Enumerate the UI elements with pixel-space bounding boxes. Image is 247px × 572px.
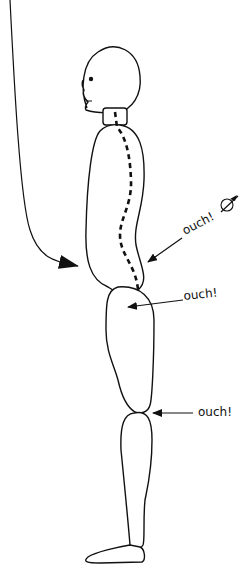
lower-back-label: ouch!: [180, 209, 217, 237]
eye: [89, 77, 93, 81]
lower-back-arrow: [148, 238, 182, 262]
torso: [86, 125, 144, 293]
hip-label: ouch!: [183, 286, 218, 303]
foot: [86, 545, 145, 563]
thigh: [106, 287, 154, 413]
posture-diagram: ouch! ouch! ouch!: [0, 0, 247, 572]
knee-label: ouch!: [198, 405, 232, 419]
pin-icon: [221, 195, 238, 212]
lower-leg: [121, 412, 152, 548]
curved-pointer-arrow: [10, 0, 78, 266]
